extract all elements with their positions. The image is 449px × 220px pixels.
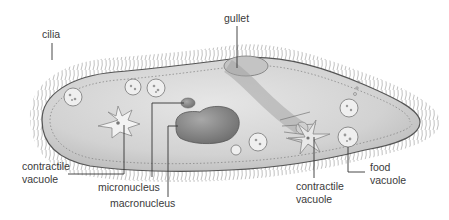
label-gullet: gullet — [224, 12, 249, 25]
label-contractile-vacuole-right-line2: vacuole — [296, 193, 332, 206]
label-food-vacuole-line2: vacuole — [370, 174, 406, 187]
label-contractile-vacuole-left-line1: contractile — [22, 160, 70, 173]
label-food-vacuole-line1: food — [370, 161, 390, 174]
label-contractile-vacuole-left-line2: vacuole — [22, 173, 58, 186]
label-macronucleus: macronucleus — [110, 197, 175, 210]
label-contractile-vacuole-right-line1: contractile — [296, 180, 344, 193]
label-micronucleus: micronucleus — [98, 181, 160, 194]
paramecium-diagram: cilia gullet contractile vacuole micronu… — [0, 0, 449, 220]
label-cilia: cilia — [42, 28, 60, 41]
paramecium-illustration — [0, 0, 449, 220]
